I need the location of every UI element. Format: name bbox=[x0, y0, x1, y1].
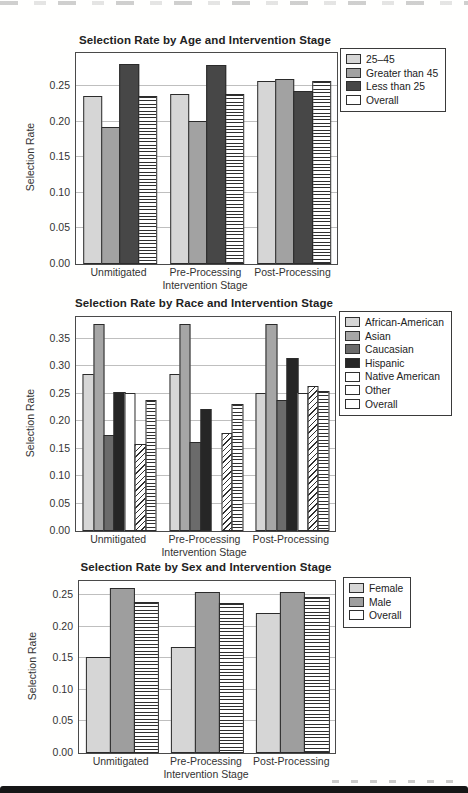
bar bbox=[101, 127, 120, 264]
legend-item: Caucasian bbox=[345, 343, 444, 357]
scanned-figure-page: Selection Rate by Age and Intervention S… bbox=[0, 0, 468, 793]
legend-label: 25–45 bbox=[366, 54, 395, 65]
legend-swatch bbox=[346, 95, 361, 105]
legend-label: Native American bbox=[365, 371, 440, 382]
legend-label: Overall bbox=[365, 399, 398, 410]
y-tick-label: 0.25 bbox=[53, 588, 73, 600]
x-tick-label: Pre-Processing bbox=[170, 266, 242, 278]
y-axis-ticks: 0.000.050.100.150.200.25 bbox=[37, 580, 73, 752]
bar bbox=[275, 79, 294, 264]
bar-group bbox=[256, 581, 328, 753]
y-tick-label: 0.20 bbox=[53, 620, 73, 632]
chart-title: Selection Rate by Race and Intervention … bbox=[75, 297, 333, 309]
bar bbox=[145, 400, 156, 531]
legend-label: Female bbox=[369, 583, 403, 594]
legend-swatch bbox=[345, 358, 360, 368]
bar bbox=[304, 597, 329, 753]
y-tick-label: 0.20 bbox=[50, 115, 70, 127]
legend-swatch bbox=[346, 54, 361, 64]
scan-artifact-bottom bbox=[332, 780, 460, 783]
x-axis-label: Intervention Stage bbox=[162, 279, 247, 291]
plot-area bbox=[78, 580, 336, 754]
bar bbox=[207, 65, 226, 264]
bars bbox=[79, 581, 335, 753]
legend-item: 25–45 bbox=[346, 53, 438, 67]
bar bbox=[83, 96, 102, 264]
legend-item: Male bbox=[349, 596, 403, 610]
bar bbox=[312, 81, 331, 264]
legend-swatch bbox=[345, 317, 360, 327]
x-tick-label: Post-Processing bbox=[254, 266, 330, 278]
bar-group bbox=[86, 581, 158, 753]
y-tick-label: 0.10 bbox=[50, 469, 70, 481]
x-tick-label: Post-Processing bbox=[253, 755, 329, 767]
y-tick-label: 0.15 bbox=[53, 651, 73, 663]
bar bbox=[257, 81, 276, 264]
bar bbox=[188, 121, 207, 265]
x-axis-ticks: UnmitigatedPre-ProcessingPost-Processing bbox=[78, 755, 334, 769]
legend-swatch bbox=[349, 610, 364, 620]
legend-item: Less than 25 bbox=[346, 80, 438, 94]
legend-swatch bbox=[346, 81, 361, 91]
legend-item: Overall bbox=[345, 398, 444, 412]
legend: African-AmericanAsianCaucasianHispanicNa… bbox=[339, 311, 452, 416]
legend-label: Greater than 45 bbox=[366, 68, 438, 79]
y-axis-ticks: 0.000.050.100.150.200.250.300.35 bbox=[34, 316, 70, 530]
bar bbox=[280, 592, 305, 753]
legend-item: African-American bbox=[345, 316, 444, 330]
y-tick-label: 0.00 bbox=[50, 524, 70, 536]
bar bbox=[318, 391, 329, 531]
bar-group bbox=[83, 53, 157, 264]
bar bbox=[170, 94, 189, 264]
x-tick-label: Unmitigated bbox=[93, 755, 149, 767]
bar bbox=[225, 94, 244, 265]
bar bbox=[134, 602, 159, 753]
legend-item: Overall bbox=[349, 609, 403, 623]
bar bbox=[256, 613, 281, 753]
legend-label: Asian bbox=[365, 331, 391, 342]
y-axis-ticks: 0.000.050.100.150.200.25 bbox=[34, 52, 70, 263]
x-axis-ticks: UnmitigatedPre-ProcessingPost-Processing bbox=[75, 266, 336, 280]
y-tick-label: 0.15 bbox=[50, 442, 70, 454]
legend-label: Male bbox=[369, 597, 391, 608]
x-tick-label: Pre-Processing bbox=[170, 755, 242, 767]
bars bbox=[76, 317, 335, 531]
bar bbox=[200, 409, 211, 531]
legend-label: Caucasian bbox=[365, 344, 414, 355]
legend-swatch bbox=[349, 597, 364, 607]
legend-swatch bbox=[346, 68, 361, 78]
y-tick-label: 0.35 bbox=[50, 332, 70, 344]
bars bbox=[76, 53, 337, 264]
legend-label: Other bbox=[365, 385, 391, 396]
y-tick-label: 0.25 bbox=[50, 387, 70, 399]
bar bbox=[171, 647, 196, 753]
bar-group bbox=[257, 53, 331, 264]
legend-item: Female bbox=[349, 582, 403, 596]
plot-area bbox=[75, 52, 338, 265]
bar-group bbox=[255, 317, 328, 531]
legend-swatch bbox=[345, 399, 360, 409]
legend-item: Overall bbox=[346, 94, 438, 108]
legend-swatch bbox=[345, 344, 360, 354]
x-tick-label: Post-Processing bbox=[253, 533, 329, 545]
legend-item: Native American bbox=[345, 370, 444, 384]
bar bbox=[86, 657, 111, 753]
y-tick-label: 0.00 bbox=[53, 746, 73, 758]
legend-swatch bbox=[349, 583, 364, 593]
legend-item: Hispanic bbox=[345, 357, 444, 371]
legend-swatch bbox=[345, 372, 360, 382]
x-axis-label: Intervention Stage bbox=[161, 546, 246, 558]
y-tick-label: 0.20 bbox=[50, 414, 70, 426]
bar-group bbox=[169, 317, 242, 531]
y-tick-label: 0.10 bbox=[50, 186, 70, 198]
x-axis-ticks: UnmitigatedPre-ProcessingPost-Processing bbox=[75, 533, 334, 547]
y-tick-label: 0.05 bbox=[50, 221, 70, 233]
legend-swatch bbox=[345, 331, 360, 341]
legend-swatch bbox=[345, 385, 360, 395]
bar bbox=[232, 404, 243, 531]
bar bbox=[219, 603, 244, 753]
legend-label: Hispanic bbox=[365, 358, 405, 369]
x-tick-label: Unmitigated bbox=[90, 533, 146, 545]
y-tick-label: 0.15 bbox=[50, 150, 70, 162]
chart-title: Selection Rate by Sex and Intervention S… bbox=[80, 561, 331, 573]
